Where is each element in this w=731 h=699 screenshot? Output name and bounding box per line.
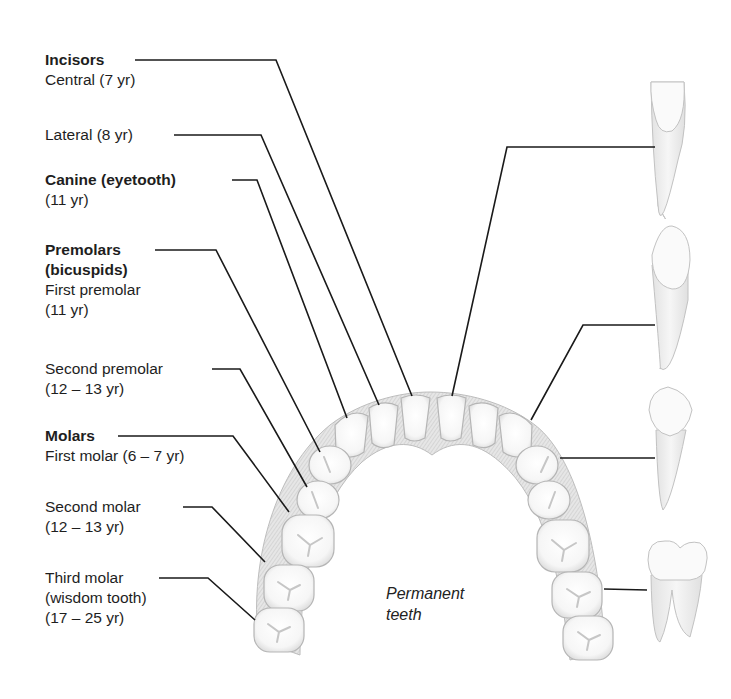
second-premolar-name: Second premolar <box>45 359 163 379</box>
leader-incisors <box>135 60 412 396</box>
third-molar-name: Third molar <box>45 568 147 588</box>
label-third-molar: Third molar (wisdom tooth) (17 – 25 yr) <box>45 568 147 628</box>
first-premolar-age: (11 yr) <box>45 300 141 320</box>
leader-side-canine <box>531 325 655 420</box>
leader-lateral <box>174 135 379 405</box>
first-molar-name: First molar (6 – 7 yr) <box>45 446 185 466</box>
label-canine: Canine (eyetooth) (11 yr) <box>45 170 176 210</box>
caption-line-2: teeth <box>386 604 464 625</box>
side-tooth-canine <box>652 226 690 370</box>
second-molar-name: Second molar <box>45 497 141 517</box>
leader-side-incisor <box>452 147 655 396</box>
canine-age: (11 yr) <box>45 190 176 210</box>
heading-bicuspids: (bicuspids) <box>45 260 141 280</box>
label-central-incisor: Central (7 yr) <box>45 70 135 90</box>
lateral-incisor-text: Lateral (8 yr) <box>45 125 133 145</box>
caption-line-1: Permanent <box>386 583 464 604</box>
label-premolars: Premolars (bicuspids) First premolar (11… <box>45 240 141 320</box>
leader-third-molar <box>159 578 255 620</box>
third-molar-note: (wisdom tooth) <box>45 588 147 608</box>
second-premolar-age: (12 – 13 yr) <box>45 379 163 399</box>
side-tooth-incisor <box>651 82 685 219</box>
caption-permanent-teeth: Permanent teeth <box>386 583 464 625</box>
label-incisors: Incisors Central (7 yr) <box>45 50 135 90</box>
first-premolar-name: First premolar <box>45 280 141 300</box>
side-tooth-premolar <box>649 387 692 510</box>
heading-incisors: Incisors <box>45 50 135 70</box>
third-molar-age: (17 – 25 yr) <box>45 608 147 628</box>
heading-molars: Molars <box>45 426 185 446</box>
leader-canine <box>232 180 347 418</box>
second-molar-age: (12 – 13 yr) <box>45 517 141 537</box>
label-molars: Molars First molar (6 – 7 yr) <box>45 426 185 466</box>
label-second-molar: Second molar (12 – 13 yr) <box>45 497 141 537</box>
leader-second-molar <box>183 507 265 562</box>
heading-canine: Canine (eyetooth) <box>45 170 176 190</box>
label-second-premolar: Second premolar (12 – 13 yr) <box>45 359 163 399</box>
side-tooth-molar <box>648 541 707 642</box>
leader-side-molar <box>604 589 647 590</box>
label-lateral-incisor: Lateral (8 yr) <box>45 125 133 145</box>
heading-premolars: Premolars <box>45 240 141 260</box>
